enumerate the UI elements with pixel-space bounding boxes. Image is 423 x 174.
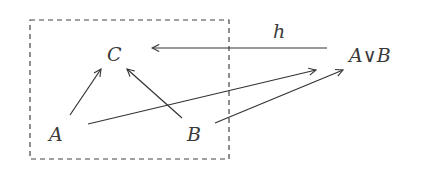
diagram-canvas: C A B A∨B h [0, 0, 423, 174]
node-a-label: A [47, 123, 63, 145]
arrow-a-to-c [70, 69, 101, 115]
edge-h-label: h [273, 20, 285, 42]
node-b-label: B [186, 123, 201, 145]
node-aorb-label: A∨B [347, 44, 391, 66]
arrow-b-to-aorb [215, 70, 343, 123]
diagram-svg: C A B A∨B h [0, 0, 423, 174]
arrow-b-to-c [127, 69, 182, 118]
arrow-a-to-aorb [88, 70, 316, 124]
node-c-label: C [107, 43, 122, 65]
